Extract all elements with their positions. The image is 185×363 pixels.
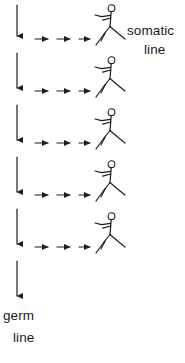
somatic-line-label-word2: line <box>144 42 165 57</box>
germ-soma-diagram: somatic line germ line <box>0 0 185 363</box>
somatic-line-label-word1: somatic <box>127 23 174 38</box>
germ-line-label-word1: germ <box>3 308 34 323</box>
germ-line-label-word2: line <box>13 330 34 345</box>
somatic-branch-3 <box>35 109 125 149</box>
stick-figure-icon <box>95 109 125 149</box>
somatic-branch-4 <box>35 161 125 201</box>
somatic-branch-5 <box>35 213 125 253</box>
stick-figure-icon <box>95 57 125 97</box>
somatic-branch-1 <box>35 5 125 45</box>
somatic-branch-2 <box>35 57 125 97</box>
stick-figure-icon <box>95 161 125 201</box>
stick-figure-icon <box>95 213 125 253</box>
stick-figure-icon <box>95 5 125 45</box>
